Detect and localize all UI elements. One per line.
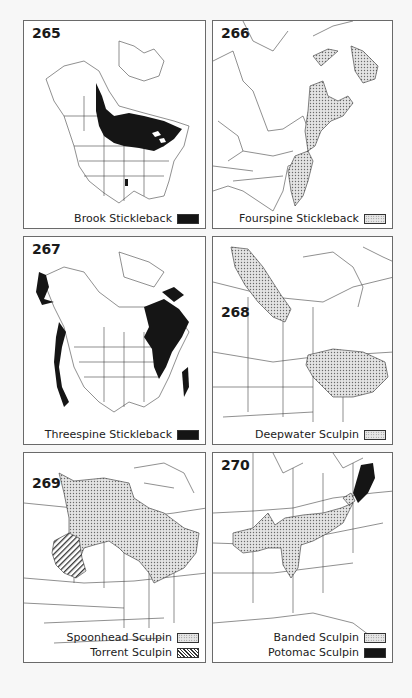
legend-item: Threespine Stickleback: [45, 428, 199, 441]
map-panel-268: 268 Deepwater Sculpin: [212, 236, 393, 445]
threespine-stickleback-range: [36, 272, 189, 407]
stipple-swatch-icon: [364, 214, 386, 224]
legend-label: Banded Sculpin: [273, 631, 359, 644]
map-legend: Banded Sculpin Potomac Sculpin: [268, 631, 386, 659]
map-number: 266: [221, 25, 249, 41]
solid-swatch-icon: [177, 214, 199, 224]
legend-item: Fourspine Stickleback: [239, 212, 386, 225]
legend-item: Torrent Sculpin: [90, 646, 199, 659]
map-legend: Brook Stickleback: [74, 212, 199, 225]
map-legend: Fourspine Stickleback: [239, 212, 386, 225]
map-number: 270: [221, 457, 249, 473]
brook-stickleback-range: [96, 83, 182, 151]
fourspine-stickleback-range: [288, 46, 378, 206]
legend-label: Threespine Stickleback: [45, 428, 172, 441]
solid-swatch-icon: [177, 430, 199, 440]
legend-label: Brook Stickleback: [74, 212, 172, 225]
legend-item: Brook Stickleback: [74, 212, 199, 225]
deepwater-sculpin-range: [231, 247, 388, 397]
map-panel-267: 267 Threespine Stickleback: [23, 236, 206, 445]
legend-item: Potomac Sculpin: [268, 646, 386, 659]
map-number: 269: [32, 475, 60, 491]
map-legend: Deepwater Sculpin: [255, 428, 386, 441]
legend-label: Potomac Sculpin: [268, 646, 359, 659]
north-america-map: [24, 237, 206, 445]
legend-item: Spoonhead Sculpin: [67, 631, 199, 644]
legend-item: Banded Sculpin: [273, 631, 386, 644]
map-number: 267: [32, 241, 60, 257]
solid-swatch-icon: [364, 648, 386, 658]
legend-label: Torrent Sculpin: [90, 646, 172, 659]
map-panel-270: 270 Banded Sculpin Potomac Sculpin: [212, 452, 393, 663]
map-legend: Spoonhead Sculpin Torrent Sculpin: [67, 631, 199, 659]
stipple-swatch-icon: [177, 633, 199, 643]
map-panel-265: 265 Brook Stickleback: [23, 20, 206, 229]
potomac-sculpin-range: [353, 463, 375, 503]
map-panel-269: 269 Spoonhead Sculpin Torrent Sculpin: [23, 452, 206, 663]
legend-label: Deepwater Sculpin: [255, 428, 359, 441]
stipple-swatch-icon: [364, 633, 386, 643]
legend-label: Fourspine Stickleback: [239, 212, 359, 225]
legend-item: Deepwater Sculpin: [255, 428, 386, 441]
hatch-swatch-icon: [177, 648, 199, 658]
north-america-map: [24, 21, 206, 229]
map-number: 268: [221, 304, 249, 320]
map-legend: Threespine Stickleback: [45, 428, 199, 441]
northeast-us-map: [213, 21, 393, 229]
central-canada-map: [213, 237, 393, 445]
map-panel-266: 266 Fourspine Stickleback: [212, 20, 393, 229]
legend-label: Spoonhead Sculpin: [67, 631, 172, 644]
map-number: 265: [32, 25, 60, 41]
stipple-swatch-icon: [364, 430, 386, 440]
